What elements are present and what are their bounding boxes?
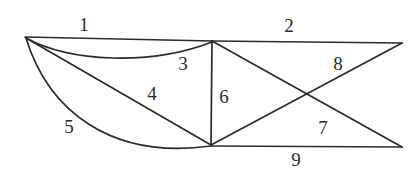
edge-8 — [212, 41, 402, 147]
graph-figure: 123456789 — [0, 0, 418, 179]
edges-group — [25, 37, 402, 148]
edge-label-6: 6 — [219, 87, 229, 106]
edge-label-9: 9 — [291, 150, 301, 169]
edge-1 — [25, 37, 212, 41]
edge-label-2: 2 — [284, 16, 294, 35]
edge-2 — [212, 41, 402, 43]
edge-label-5: 5 — [64, 117, 74, 136]
edge-label-1: 1 — [79, 15, 89, 34]
edge-label-3: 3 — [178, 54, 188, 73]
edge-label-4: 4 — [147, 84, 157, 103]
edge-label-7: 7 — [318, 118, 328, 137]
edge-9 — [211, 146, 402, 147]
edge-label-8: 8 — [333, 54, 343, 73]
graph-canvas — [0, 0, 418, 179]
edge-6 — [211, 41, 212, 145]
